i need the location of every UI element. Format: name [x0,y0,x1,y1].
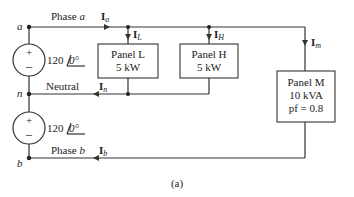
source-magnitude: 120 [47,122,64,134]
node-a-dot [27,25,31,29]
current-ib-label: Ib [99,144,107,158]
arrow-down-icon [125,34,131,40]
node-n-dot [27,92,31,96]
plus-icon: + [26,114,32,126]
current-ih-label: IH [214,28,225,42]
voltage-source-lower: + – [13,112,45,144]
voltage-source-upper: + – [13,44,45,76]
source-magnitude: 120 [47,54,64,66]
neutral-label: Neutral [46,80,79,92]
phase-a-label: Phase a [51,10,85,22]
panel-m-title: Panel M [288,76,325,88]
panel-h-rating: 5 kW [197,61,222,73]
phase-b-label: Phase b [51,144,85,156]
arrow-down-icon [302,40,308,46]
minus-icon: – [25,127,33,141]
panel-m-rating: 10 kVA [289,89,323,101]
current-ia-label: Ia [101,10,109,24]
node-b-dot [27,156,31,160]
svg-text:120: 120 [47,122,64,134]
arrow-right-icon [104,24,110,30]
figure-caption: (a) [171,177,184,190]
panel-l: Panel L 5 kW [98,44,158,78]
current-in-label: In [99,80,107,94]
panel-m-pf: pf = 0.8 [289,102,324,114]
junction-l-top [126,25,130,29]
arrow-down-icon [206,34,212,40]
source-label-upper: 120 0° [47,54,85,66]
svg-text:120: 120 [47,54,64,66]
panel-l-title: Panel L [111,48,145,60]
wires [29,27,305,158]
panel-h: Panel H 5 kW [180,44,238,78]
junction-l-bottom [126,92,130,96]
node-b-label: b [17,157,23,169]
minus-icon: – [25,59,33,73]
current-im-label: Im [311,36,321,50]
node-a-label: a [17,20,23,32]
plus-icon: + [26,46,32,58]
panel-l-rating: 5 kW [116,61,141,73]
junction-h-top [207,25,211,29]
current-il-label: IL [133,28,142,42]
circuit-diagram: + – + – 120 0° 120 0° a n b Phase a Neut… [0,0,354,197]
source-label-lower: 120 0° [47,122,85,134]
panel-m: Panel M 10 kVA pf = 0.8 [277,71,335,122]
panel-h-title: Panel H [191,48,226,60]
node-n-label: n [17,87,23,99]
